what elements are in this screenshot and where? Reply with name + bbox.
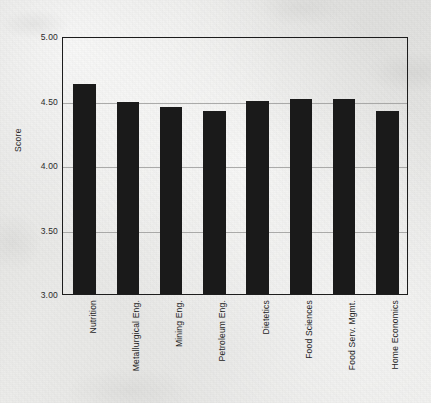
gridline bbox=[63, 232, 407, 233]
scanned-chart-page: Score 3.003.504.004.505.00 NutritionMeta… bbox=[0, 0, 431, 403]
x-axis-tick-label: Nutrition bbox=[88, 300, 98, 333]
x-axis-tick-label: Petroleum Eng. bbox=[217, 300, 227, 361]
bar bbox=[117, 102, 139, 294]
bar bbox=[160, 107, 182, 294]
x-axis-tick-label: Food Sciences bbox=[304, 300, 314, 359]
bar bbox=[73, 84, 95, 294]
gridline bbox=[63, 167, 407, 168]
x-axis-tick-label: Food Serv. Mgmt. bbox=[347, 300, 357, 370]
x-axis-tick-label: Home Economics bbox=[390, 300, 400, 369]
y-axis-tick-label: 5.00 bbox=[14, 32, 58, 42]
gridline bbox=[63, 103, 407, 104]
y-axis-tick-label: 3.00 bbox=[14, 290, 58, 300]
x-axis-tick-label: Mining Eng. bbox=[174, 300, 184, 347]
plot-area bbox=[62, 37, 408, 295]
bar bbox=[333, 99, 355, 294]
y-axis-tick-label: 3.50 bbox=[14, 226, 58, 236]
bar bbox=[376, 111, 398, 294]
bar-chart: Score 3.003.504.004.505.00 NutritionMeta… bbox=[0, 0, 431, 403]
x-axis-tick-label: Metallurgical Eng. bbox=[131, 300, 141, 371]
bar bbox=[203, 111, 225, 294]
y-axis-tick-labels: 3.003.504.004.505.00 bbox=[8, 0, 58, 403]
x-axis-tick-label: Dietetics bbox=[261, 300, 271, 334]
bar bbox=[246, 101, 268, 295]
y-axis-tick-label: 4.00 bbox=[14, 161, 58, 171]
y-axis-tick-label: 4.50 bbox=[14, 97, 58, 107]
bar bbox=[290, 99, 312, 294]
